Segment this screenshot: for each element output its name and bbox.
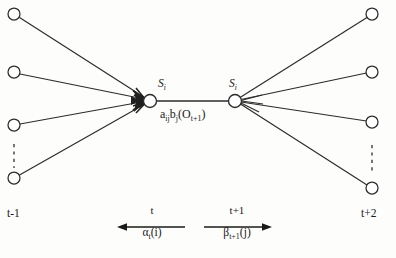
edge-left-1: [20, 18, 145, 98]
right-state-2: [366, 66, 378, 78]
forward-time-label: t: [113, 204, 191, 217]
right-fan-edges: [240, 18, 367, 186]
center-left-state-label: Si: [158, 78, 166, 92]
center-state-right: [229, 95, 242, 108]
time-label-left: t-1: [7, 208, 20, 220]
edge-left-4: [20, 105, 145, 176]
right-state-3: [366, 116, 378, 128]
edge-right-1: [240, 18, 367, 98]
center-state-left: [144, 95, 157, 108]
center-right-state-label: Si: [229, 78, 237, 92]
transition-edge-label: aijbj(Ot+1): [160, 108, 205, 123]
right-state-1: [366, 8, 378, 20]
backward-variable-annotation: t+1 βt+1(j): [198, 204, 276, 240]
backward-arrow-icon: [198, 217, 276, 225]
backward-time-label: t+1: [198, 204, 276, 217]
figure-canvas: Si Si aijbj(Ot+1) t-1 t+2 t αt(i) t+1 βt…: [0, 0, 396, 258]
edge-left-2: [20, 74, 144, 99]
left-state-1: [8, 8, 20, 20]
forward-arrow-icon: [113, 217, 191, 225]
right-state-4: [366, 182, 378, 194]
left-fan-edges: [20, 18, 145, 176]
forward-variable-annotation: t αt(i): [113, 204, 191, 240]
left-state-4: [8, 172, 20, 184]
left-state-2: [8, 66, 20, 78]
left-state-3: [8, 119, 20, 131]
edge-left-3: [20, 102, 144, 125]
time-label-right: t+2: [361, 208, 376, 220]
edge-right-4: [241, 104, 368, 185]
edge-right-3: [241, 102, 367, 121]
